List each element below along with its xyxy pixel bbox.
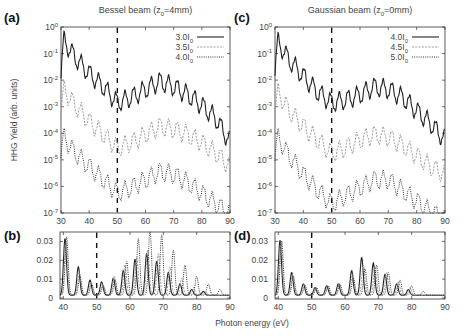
x-tick-label: 40 <box>84 216 94 226</box>
x-tick-label: 70 <box>169 216 179 226</box>
x-tick-label: 50 <box>92 302 102 312</box>
y-tick-label: 10-6 <box>257 181 272 192</box>
series-4.5I0 <box>275 242 445 295</box>
y-tick-label: 10-6 <box>43 181 58 192</box>
y-tick-label: 10-3 <box>257 101 272 112</box>
x-tick-label: 60 <box>355 216 365 226</box>
x-tick-label: 80 <box>407 302 417 312</box>
y-tick-label: 10-1 <box>257 48 272 59</box>
panel-title: Gaussian beam (z0=0mm) <box>308 5 413 17</box>
y-tick-label: 10-3 <box>43 101 58 112</box>
plot-frame <box>275 232 445 299</box>
y-tick-label: 10-2 <box>257 75 272 86</box>
x-tick-label: 40 <box>274 302 284 312</box>
y-tick-label: 0.02 <box>251 255 268 265</box>
panel-label: (c) <box>234 10 250 25</box>
x-tick-label: 90 <box>225 216 235 226</box>
x-tick-label: 40 <box>299 216 309 226</box>
y-tick-label: 10-1 <box>43 48 58 59</box>
y-tick-label: 0.03 <box>36 236 53 246</box>
x-tick-label: 60 <box>141 216 151 226</box>
y-tick-label: 0 <box>48 293 53 303</box>
series-4.0I0 <box>275 241 445 295</box>
y-tick-label: 0.02 <box>36 255 53 265</box>
panel-label: (a) <box>4 10 20 25</box>
x-tick-label: 50 <box>113 216 123 226</box>
y-tick-label: 10-2 <box>43 75 58 86</box>
panel-title: Bessel beam (z0=4mm) <box>99 5 193 17</box>
panel-label: (d) <box>234 228 251 243</box>
x-tick-label: 50 <box>327 216 337 226</box>
x-tick-label: 80 <box>192 302 202 312</box>
x-tick-label: 90 <box>440 216 450 226</box>
y-tick-label: 100 <box>259 22 272 33</box>
y-tick-label: 0.01 <box>251 274 268 284</box>
x-tick-label: 70 <box>159 302 169 312</box>
x-tick-label: 70 <box>374 302 384 312</box>
y-tick-label: 10-5 <box>43 154 58 165</box>
x-tick-label: 30 <box>270 216 280 226</box>
y-tick-label: 0 <box>263 293 268 303</box>
x-tick-label: 50 <box>307 302 317 312</box>
x-axis-label: Photon energy (eV) <box>215 318 289 328</box>
series-5.0I0 <box>275 128 445 213</box>
legend-label: 4.0I0 <box>175 52 193 64</box>
plot-frame <box>61 27 230 213</box>
y-tick-label: 100 <box>45 22 58 33</box>
y-axis-label: HHG Yield (arb. units) <box>9 78 19 161</box>
x-tick-label: 80 <box>197 216 207 226</box>
panel-c: (c)Gaussian beam (z0=0mm)10010-110-210-3… <box>234 5 450 226</box>
figure-canvas: (a)Bessel beam (z0=4mm)10010-110-210-310… <box>0 0 465 336</box>
x-tick-label: 30 <box>56 216 66 226</box>
x-tick-label: 90 <box>225 302 235 312</box>
panel-d: (d)00.010.020.03405060708090 <box>234 228 450 312</box>
y-tick-label: 0.03 <box>251 236 268 246</box>
x-tick-label: 90 <box>440 302 450 312</box>
y-tick-label: 10-5 <box>257 154 272 165</box>
panel-b: (b)00.010.020.03405060708090 <box>4 228 235 312</box>
x-tick-label: 60 <box>125 302 135 312</box>
y-tick-label: 0.01 <box>36 274 53 284</box>
legend-label: 5.0I0 <box>390 52 408 64</box>
panel-a: (a)Bessel beam (z0=4mm)10010-110-210-310… <box>4 5 235 226</box>
x-tick-label: 80 <box>412 216 422 226</box>
series-5.0I0 <box>275 241 445 296</box>
y-tick-label: 10-4 <box>43 128 58 139</box>
x-tick-label: 40 <box>59 302 69 312</box>
x-tick-label: 60 <box>340 302 350 312</box>
x-tick-label: 70 <box>384 216 394 226</box>
panel-label: (b) <box>4 228 21 243</box>
y-tick-label: 10-4 <box>257 128 272 139</box>
series-4.0I0 <box>60 232 230 295</box>
series-4.0I0 <box>275 33 445 145</box>
series-3.0I0 <box>61 31 230 145</box>
plot-frame <box>275 27 445 213</box>
